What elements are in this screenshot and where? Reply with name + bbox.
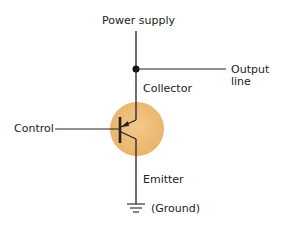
output-line-label-2: line bbox=[231, 76, 269, 88]
control-label: Control bbox=[14, 123, 54, 135]
collector-label: Collector bbox=[143, 83, 192, 95]
ground-label: (Ground) bbox=[151, 203, 200, 215]
output-line-label: Output line bbox=[231, 64, 269, 88]
ground-icon bbox=[127, 204, 145, 212]
power-supply-label: Power supply bbox=[102, 15, 175, 27]
transistor-diagram bbox=[0, 0, 281, 230]
emitter-label: Emitter bbox=[143, 174, 184, 186]
